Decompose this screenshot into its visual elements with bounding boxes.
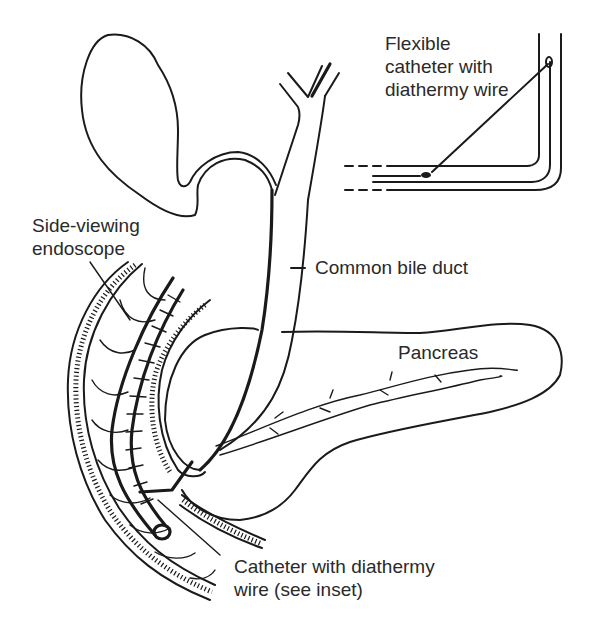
pancreas-label: Pancreas [398,341,478,364]
pancreatic-branches [270,372,441,434]
inset-label: Flexible catheter with diathermy wire [385,32,509,101]
right-hepatic-duct-c [325,73,339,96]
right-hepatic-duct-outer [308,96,325,200]
endoscope-label: Side-viewing endoscope [32,214,140,260]
duodenum-inner-wall [159,300,210,476]
common-bile-duct-label: Common bile duct [315,256,468,279]
gallbladder-outline [81,35,272,216]
pancreas-inner-head [165,335,205,470]
duodenum-lower-hatch [183,500,262,544]
endoscope-outer [111,278,173,535]
right-hepatic-duct-a [288,66,322,97]
pancreatic-duct [216,368,517,446]
pancreas-outline [182,324,562,520]
pancreatic-duct-lower [220,376,502,455]
catheter-label: Catheter with diathermy wire (see inset) [234,555,435,601]
left-hepatic-duct [275,84,300,195]
diagram-canvas: Flexible catheter with diathermy wire Si… [0,0,590,635]
catheter-diathermy [140,462,192,492]
